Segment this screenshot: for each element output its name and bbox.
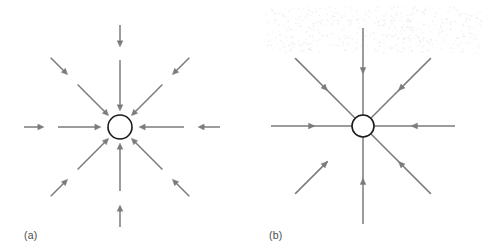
arrow-from-upper-left-outer: [51, 58, 64, 71]
central-circle: [352, 115, 374, 137]
ray-from-lower-right: [371, 134, 431, 194]
ray-from-lower-left-line: [295, 161, 328, 194]
arrow-from-lower-left-outer-line: [51, 183, 64, 196]
arrow-from-top-outer-arrowhead: [117, 41, 123, 47]
arrow-from-left-inner-arrowhead: [95, 124, 101, 130]
panel-a-diagram: [0, 0, 244, 250]
ray-from-upper-left-line: [295, 58, 355, 118]
arrow-from-lower-left-outer: [51, 183, 64, 196]
arrow-from-top-inner-arrowhead: [117, 105, 123, 111]
arrow-from-bottom-outer-arrowhead: [117, 205, 123, 211]
arrow-from-right-outer-arrowhead: [198, 124, 204, 130]
arrow-from-bottom-inner-arrowhead: [117, 143, 123, 149]
arrow-from-lower-right-outer: [176, 183, 189, 196]
arrow-from-lower-right-outer-line: [176, 183, 189, 196]
arrow-from-upper-right-inner-line: [135, 85, 162, 112]
figure-container: (a) (b): [0, 0, 489, 250]
central-circle: [108, 115, 132, 139]
arrow-from-left-outer-arrowhead: [38, 124, 44, 130]
panel-a-label: (a): [24, 230, 37, 241]
arrow-from-lower-right-inner: [135, 142, 162, 169]
arrow-from-upper-left-inner-line: [78, 85, 105, 112]
arrow-from-lower-left-inner: [78, 142, 105, 169]
ray-from-upper-right-line: [371, 58, 431, 118]
arrow-from-upper-right-outer: [176, 58, 189, 71]
panel-b-diagram: [245, 0, 489, 250]
arrow-from-upper-left-inner: [78, 85, 105, 112]
arrow-from-lower-left-inner-line: [78, 142, 105, 169]
ray-from-lower-left: [295, 161, 328, 194]
panel-b-label: (b): [269, 230, 282, 241]
arrow-from-upper-right-outer-line: [176, 58, 189, 71]
panel-a: (a): [0, 0, 244, 250]
ray-from-upper-right: [371, 58, 431, 118]
arrow-from-upper-left-outer-line: [51, 58, 64, 71]
arrow-from-lower-right-inner-line: [135, 142, 162, 169]
panel-b: (b): [245, 0, 489, 250]
arrow-from-right-inner-arrowhead: [139, 124, 145, 130]
ray-from-lower-right-line: [371, 134, 431, 194]
ray-from-upper-left: [295, 58, 355, 118]
arrow-from-upper-right-inner: [135, 85, 162, 112]
